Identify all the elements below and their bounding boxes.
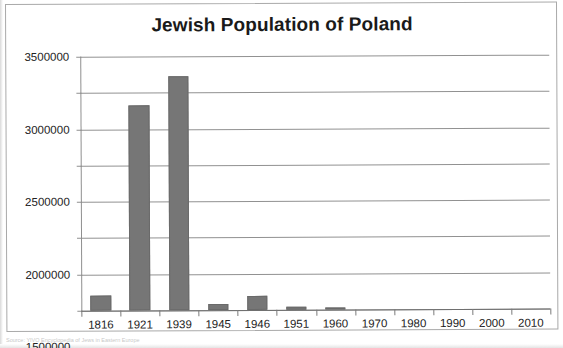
y-axis-label: 3500000 [24,51,69,63]
x-axis-tick [433,309,434,315]
y-axis-label: 3000000 [25,123,70,135]
x-axis-label: 2010 [518,317,544,329]
bar [247,295,267,310]
x-axis-label: 1946 [244,318,270,330]
x-axis-label: 1990 [440,317,466,329]
bar [91,295,111,310]
x-axis-label: 1945 [205,318,231,330]
x-axis-tick [511,309,512,315]
x-axis-label: 2000 [479,317,505,329]
x-axis-label: 1960 [323,318,349,330]
x-axis-label: 1970 [362,317,388,329]
bar [168,77,189,311]
x-axis-tick [238,310,239,316]
source-caption: Source: YIVO Encyclopedia of Jews in Eas… [6,337,306,345]
plot-area: 0500000100000015000002000000250000030000… [80,55,550,312]
x-axis-tick [199,310,200,316]
x-axis-tick [394,309,395,315]
x-axis-label: 1921 [127,318,153,330]
chart-title: Jewish Population of Poland [6,13,558,37]
x-axis-tick [316,310,317,316]
scan-edge-left [0,0,3,348]
y-axis-label: 2000000 [25,268,70,280]
scanned-page: Jewish Population of Poland 050000010000… [0,0,563,348]
x-axis-tick [472,309,473,315]
x-axis-tick [277,310,278,316]
x-axis-tick [159,310,160,316]
chart-frame: Jewish Population of Poland 050000010000… [5,2,558,332]
x-axis-label: 1939 [166,318,192,330]
x-axis-tick [355,309,356,315]
x-axis-tick [550,309,551,315]
x-axis-label: 1980 [401,317,427,329]
x-axis-label: 1951 [284,318,310,330]
x-axis-tick [81,311,82,317]
x-axis-tick [120,310,121,316]
bar [129,105,150,310]
bar-series [80,55,550,312]
y-axis-label: 2500000 [25,196,70,208]
x-axis-label: 1816 [88,319,114,331]
